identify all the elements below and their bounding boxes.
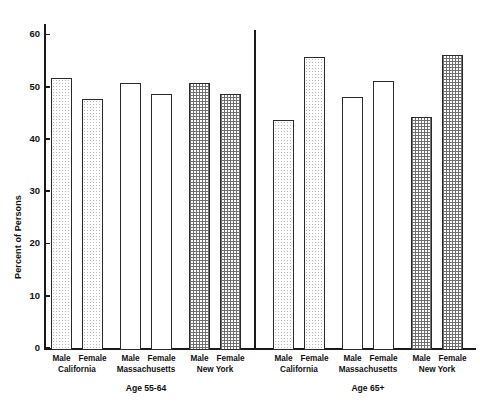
y-tick-mark bbox=[44, 190, 50, 192]
age-group-separator-line bbox=[254, 30, 256, 348]
bar-california-female-age-65 bbox=[304, 57, 325, 350]
x-label-age-group: Age 65+ bbox=[308, 384, 428, 393]
x-label-sex: Female bbox=[142, 355, 182, 363]
bar-new-york-female-age-65 bbox=[442, 55, 463, 350]
bar-new-york-male-age-55-64 bbox=[189, 83, 210, 350]
bar-california-female-age-55-64 bbox=[82, 99, 103, 350]
bar-chart: Percent of Persons 0102030405060 MaleFem… bbox=[0, 0, 480, 404]
bar-new-york-male-age-65 bbox=[411, 117, 432, 350]
y-tick-mark bbox=[44, 138, 50, 140]
y-tick-mark bbox=[44, 295, 50, 297]
bar-massachusetts-male-age-55-64 bbox=[120, 83, 141, 350]
y-tick-label: 10 bbox=[14, 291, 40, 301]
x-label-sex: Female bbox=[211, 355, 251, 363]
y-tick-mark bbox=[44, 34, 50, 36]
y-tick-label: 50 bbox=[14, 82, 40, 92]
x-label-sex: Female bbox=[433, 355, 473, 363]
bar-california-male-age-65 bbox=[273, 120, 294, 350]
y-tick-mark bbox=[44, 347, 50, 349]
x-label-state: New York bbox=[170, 366, 260, 374]
y-tick-label: 30 bbox=[14, 186, 40, 196]
y-tick-mark bbox=[44, 86, 50, 88]
x-label-sex: Female bbox=[295, 355, 335, 363]
y-tick-mark bbox=[44, 243, 50, 245]
x-label-sex: Female bbox=[364, 355, 404, 363]
bar-massachusetts-female-age-55-64 bbox=[151, 94, 172, 350]
bar-massachusetts-female-age-65 bbox=[373, 81, 394, 350]
x-label-sex: Female bbox=[73, 355, 113, 363]
y-tick-label: 0 bbox=[14, 343, 40, 353]
bar-new-york-female-age-55-64 bbox=[220, 94, 241, 350]
y-axis-line bbox=[44, 24, 46, 350]
y-tick-label: 20 bbox=[14, 238, 40, 248]
x-label-age-group: Age 55-64 bbox=[86, 384, 206, 393]
y-tick-label: 60 bbox=[14, 29, 40, 39]
x-label-state: New York bbox=[392, 366, 480, 374]
bar-massachusetts-male-age-65 bbox=[342, 97, 363, 350]
bar-california-male-age-55-64 bbox=[51, 78, 72, 350]
y-tick-label: 40 bbox=[14, 134, 40, 144]
